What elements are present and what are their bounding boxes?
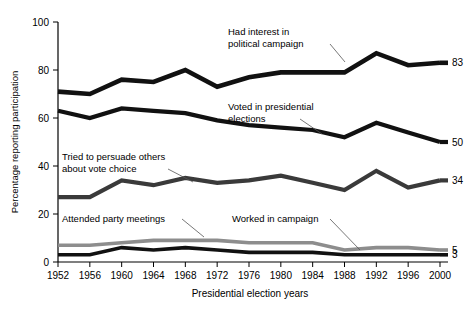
x-tick-label: 1992 <box>365 270 388 281</box>
annotation-worked-campaign: Worked in campaign <box>232 213 318 224</box>
annotation-leader-worked-campaign <box>330 219 360 250</box>
series-end-labels: 83503453 <box>452 57 464 260</box>
series-end-label-1: 50 <box>452 137 464 148</box>
annotation-voted-presidential: Voted in presidentialelections <box>228 101 314 124</box>
x-tick-label: 2000 <box>429 270 452 281</box>
annotation-leader-had-interest <box>330 44 345 62</box>
y-tick-label: 40 <box>38 161 50 172</box>
x-tick-label: 1976 <box>238 270 261 281</box>
x-tick-label: 1968 <box>174 270 197 281</box>
x-tick-label: 1984 <box>302 270 325 281</box>
y-tick-label: 20 <box>38 209 50 220</box>
x-tick-label: 1988 <box>333 270 356 281</box>
series-end-label-2: 34 <box>452 175 464 186</box>
x-axis-title: Presidential election years <box>192 288 309 299</box>
chart-canvas: 020406080100 195219561960196419681972197… <box>0 0 464 312</box>
x-tick-label: 1972 <box>206 270 229 281</box>
x-tick-label: 1952 <box>47 270 70 281</box>
participation-line-chart: 020406080100 195219561960196419681972197… <box>0 0 464 312</box>
y-axis-title: Percentage reporting participation <box>9 71 20 214</box>
series-line-2 <box>58 171 440 197</box>
x-tick-label: 1996 <box>397 270 420 281</box>
annotation-attended-meetings: Attended party meetings <box>62 213 165 224</box>
x-axis: 1952195619601964196819721976198019841988… <box>47 262 452 281</box>
y-tick-label: 80 <box>38 65 50 76</box>
y-tick-label: 60 <box>38 113 50 124</box>
y-tick-label: 0 <box>43 257 49 268</box>
x-tick-label: 1956 <box>79 270 102 281</box>
annotation-leader-attended-meetings <box>182 219 204 237</box>
series-end-label-0: 83 <box>452 57 464 68</box>
x-tick-label: 1964 <box>142 270 165 281</box>
x-tick-label: 1960 <box>111 270 134 281</box>
annotation-tried-persuade: Tried to persuade othersabout vote choic… <box>62 151 165 174</box>
series-line-0 <box>58 53 440 94</box>
y-tick-label: 100 <box>32 17 49 28</box>
x-tick-label: 1980 <box>270 270 293 281</box>
series-annotations: Had interest inpolitical campaignVoted i… <box>62 26 360 250</box>
series-end-label-4: 3 <box>452 249 458 260</box>
y-axis: 020406080100 <box>32 17 58 268</box>
annotation-had-interest: Had interest inpolitical campaign <box>228 26 304 49</box>
